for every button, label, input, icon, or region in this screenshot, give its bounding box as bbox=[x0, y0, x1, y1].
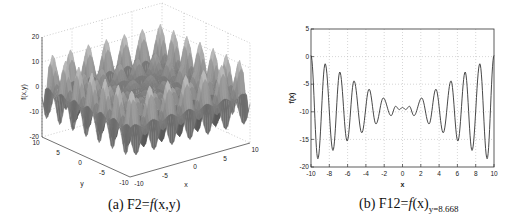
z-tick-label: -20 bbox=[30, 133, 40, 140]
y-tick-label: 5 bbox=[56, 149, 60, 156]
z-tick-label: 20 bbox=[32, 33, 40, 40]
x-tick-label: 4 bbox=[437, 170, 441, 177]
x-tick-label: 10 bbox=[251, 146, 259, 153]
y-tick-label: -5 bbox=[99, 169, 105, 176]
surface-plot-panel: -10-505101050-5-1020100-10-20xyf(x,y) (a… bbox=[0, 0, 260, 222]
z-axis-label: f(x,y) bbox=[20, 84, 28, 100]
caption-b-args: (x) bbox=[412, 196, 428, 211]
caption-a-args: (x,y) bbox=[154, 197, 181, 212]
surface bbox=[42, 24, 250, 155]
caption-a-prefix: (a) F2= bbox=[108, 197, 150, 212]
x-axis-label: x bbox=[184, 181, 188, 188]
x-tick-label: 0 bbox=[401, 170, 405, 177]
y-tick-label: -15 bbox=[300, 136, 310, 143]
x-tick-label: -4 bbox=[363, 170, 369, 177]
x-tick-label: -8 bbox=[326, 170, 332, 177]
y-tick-label: -20 bbox=[300, 163, 310, 170]
y-tick-label: 0 bbox=[78, 159, 82, 166]
line-plot-panel: -10-8-6-4-2024681050-5-10-15-20xf(x) (b)… bbox=[260, 0, 516, 222]
x-tick-label: -6 bbox=[345, 170, 351, 177]
x-tick-label: 5 bbox=[223, 155, 227, 162]
y-axis bbox=[42, 137, 130, 177]
z-tick-label: 0 bbox=[35, 83, 39, 90]
y-tick-label: 0 bbox=[305, 53, 309, 60]
line-plot: -10-8-6-4-2024681050-5-10-15-20xf(x) bbox=[260, 0, 516, 190]
x-tick-label: -2 bbox=[381, 170, 387, 177]
x-tick-label: -10 bbox=[134, 180, 144, 187]
x-tick-label: -10 bbox=[306, 170, 316, 177]
z-tick-label: 10 bbox=[32, 58, 40, 65]
caption-b: (b) F12=f(x)y=8.668 bbox=[359, 196, 459, 214]
x-axis bbox=[130, 143, 250, 177]
y-tick-label: -10 bbox=[119, 179, 129, 186]
y-tick-label: -5 bbox=[303, 80, 309, 87]
caption-a: (a) F2=f(x,y) bbox=[108, 197, 180, 213]
caption-b-prefix: (b) F12= bbox=[359, 196, 409, 211]
surface-plot: -10-505101050-5-1020100-10-20xyf(x,y) bbox=[0, 0, 260, 190]
y-axis-label: y bbox=[80, 180, 84, 188]
z-tick-label: -10 bbox=[30, 108, 40, 115]
caption-b-sub: y=8.668 bbox=[429, 204, 459, 214]
x-tick-label: 2 bbox=[419, 170, 423, 177]
y-tick-label: 5 bbox=[305, 25, 309, 32]
x-tick-label: 6 bbox=[456, 170, 460, 177]
x-tick-label: 8 bbox=[474, 170, 478, 177]
y-tick-label: -10 bbox=[300, 108, 310, 115]
x-tick-label: 10 bbox=[490, 170, 498, 177]
x-tick-label: 0 bbox=[193, 163, 197, 170]
y-axis-label: f(x) bbox=[288, 93, 296, 104]
x-axis-label: x bbox=[401, 181, 405, 188]
x-tick-label: -5 bbox=[162, 172, 168, 179]
